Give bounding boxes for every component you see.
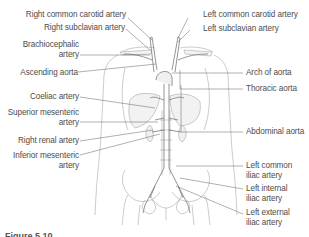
label-text-line2: iliac artery <box>246 171 292 181</box>
label-text: Ascending aorta <box>20 68 78 77</box>
label-text-line2: artery <box>23 50 79 60</box>
figure-caption: Figure 5.10 <box>5 231 53 237</box>
label-text: Thoracic aorta <box>246 84 297 93</box>
label-text-line2: iliac artery <box>246 194 288 204</box>
label-text-line1: Brachiocephalic <box>23 40 79 50</box>
label-text: Coeliac artery <box>30 92 79 101</box>
label-text-line2: artery <box>8 118 79 128</box>
label-text: Left subclavian artery <box>203 24 279 33</box>
label-arch-of-aorta: Arch of aorta <box>246 68 292 78</box>
label-left-subclavian-artery: Left subclavian artery <box>203 24 279 34</box>
anatomy-figure: Right common carotid artery Right subcla… <box>0 0 309 237</box>
label-text: Arch of aorta <box>246 68 292 77</box>
label-abdominal-aorta: Abdominal aorta <box>246 127 304 137</box>
label-text: Left common carotid artery <box>203 10 298 19</box>
label-left-common-iliac-artery: Left common iliac artery <box>246 161 292 181</box>
label-right-subclavian-artery: Right subclavian artery <box>44 23 125 33</box>
leader-lines <box>78 18 243 214</box>
label-text-line1: Left external <box>246 208 290 218</box>
label-left-common-carotid-artery: Left common carotid artery <box>203 10 298 20</box>
label-coeliac-artery: Coeliac artery <box>30 92 79 102</box>
label-text: Right common carotid artery <box>26 10 126 19</box>
label-text: Abdominal aorta <box>246 127 304 136</box>
label-text: Right subclavian artery <box>44 23 125 32</box>
label-text-line1: Superior mesenteric <box>8 108 79 118</box>
label-text: Right renal artery <box>18 136 79 145</box>
label-brachiocephalic-artery: Brachiocephalic artery <box>23 40 79 60</box>
label-text-line1: Left common <box>246 161 292 171</box>
label-left-external-iliac-artery: Left external iliac artery <box>246 208 290 228</box>
label-left-internal-iliac-artery: Left internal iliac artery <box>246 184 288 204</box>
label-text-line1: Left internal <box>246 184 288 194</box>
label-text-line1: Inferior mesenteric <box>13 151 79 161</box>
label-right-common-carotid-artery: Right common carotid artery <box>26 10 126 20</box>
label-inferior-mesenteric-artery: Inferior mesenteric artery <box>13 151 79 171</box>
label-text-line2: iliac artery <box>246 218 290 228</box>
label-superior-mesenteric-artery: Superior mesenteric artery <box>8 108 79 128</box>
label-ascending-aorta: Ascending aorta <box>20 68 78 78</box>
label-right-renal-artery: Right renal artery <box>18 136 79 146</box>
label-text-line2: artery <box>13 161 79 171</box>
label-thoracic-aorta: Thoracic aorta <box>246 84 297 94</box>
